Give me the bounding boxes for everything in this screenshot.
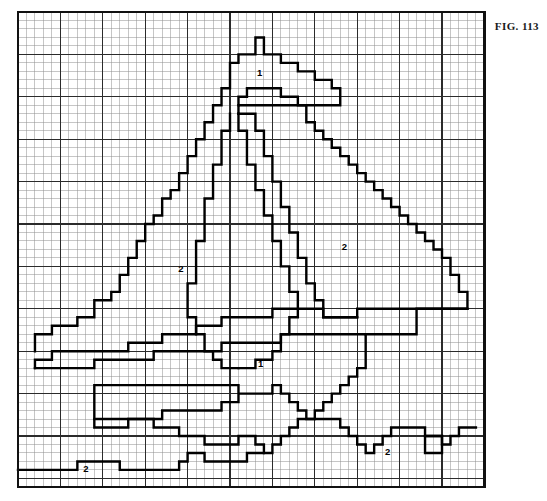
hull-upper-outline — [35, 334, 366, 427]
figure-number-label: FIG. 113 — [495, 20, 539, 32]
region-symbol-hull-upper: 1 — [258, 358, 264, 369]
figure-container: 122122 FIG. 113 — [0, 0, 547, 501]
deck-ledge-right — [366, 309, 468, 334]
region-symbol-upper-sail-tip: 1 — [257, 67, 263, 78]
region-symbol-right-sail: 2 — [342, 241, 347, 252]
region-symbol-left-mainsail: 2 — [178, 263, 183, 274]
region-symbol-hull-left-waterline: 2 — [83, 463, 88, 474]
pattern-chart-svg: 122122 — [0, 0, 547, 501]
minor-gridlines — [18, 12, 484, 487]
region-symbol-hull-right-waterline: 2 — [385, 446, 390, 457]
